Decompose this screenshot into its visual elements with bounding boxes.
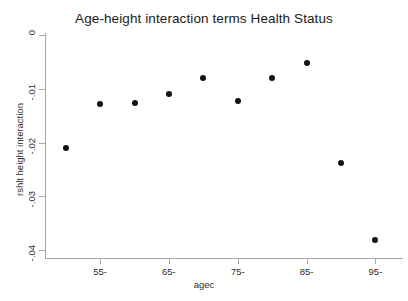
y-tick-mark: [39, 196, 45, 197]
x-axis-line: [45, 258, 403, 259]
y-axis-title: rshlt height interaction: [13, 50, 26, 250]
data-point: [63, 145, 69, 151]
data-point: [304, 60, 310, 66]
data-point: [269, 75, 275, 81]
y-tick-label: -.04: [0, 250, 38, 251]
x-tick-label: 55-: [93, 266, 107, 277]
chart-title: Age-height interaction terms Health Stat…: [0, 11, 408, 26]
y-tick-mark: [39, 89, 45, 90]
data-point: [338, 160, 344, 166]
x-tick-label: 85-: [300, 266, 314, 277]
chart-figure: Age-height interaction terms Health Stat…: [0, 0, 408, 301]
y-tick-mark: [39, 35, 45, 36]
x-tick-mark: [307, 259, 308, 264]
x-tick-label: 75-: [231, 266, 245, 277]
y-axis-line: [45, 33, 46, 259]
x-tick-mark: [100, 259, 101, 264]
data-point: [166, 91, 172, 97]
y-tick-mark: [39, 143, 45, 144]
x-axis-title: agec: [0, 279, 408, 290]
data-point: [372, 237, 378, 243]
y-tick-label: 0: [0, 35, 38, 36]
data-point: [200, 75, 206, 81]
x-tick-mark: [375, 259, 376, 264]
y-tick-label: -.01: [0, 89, 38, 90]
data-point: [97, 101, 103, 107]
x-tick-label: 65-: [162, 266, 176, 277]
y-tick-mark: [39, 250, 45, 251]
x-tick-mark: [238, 259, 239, 264]
data-point: [235, 98, 241, 104]
data-point: [132, 100, 138, 106]
y-tick-label: -.03: [0, 196, 38, 197]
x-tick-label: 95-: [369, 266, 383, 277]
y-tick-label: -.02: [0, 143, 38, 144]
x-tick-mark: [169, 259, 170, 264]
